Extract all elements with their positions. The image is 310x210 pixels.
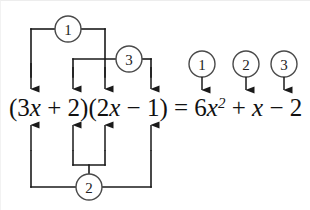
figure-canvas: 1 3 1 2 — [0, 0, 310, 210]
connector-1-group: 1 — [31, 16, 105, 77]
result-marker-2-label: 2 — [242, 57, 250, 73]
result-marker-2-group: 2 — [233, 51, 259, 90]
eq-open-paren-2: ( — [88, 94, 96, 122]
foil-diagram: 1 3 1 2 — [1, 1, 310, 210]
connector-1-label: 1 — [64, 22, 72, 38]
result-marker-3-label: 3 — [280, 57, 288, 73]
equation-text: (3x + 2)(2x − 1) = 6x2 + x − 2 — [9, 94, 302, 122]
eq-coeff-2: 2 — [97, 94, 110, 121]
eq-equals: = — [168, 94, 195, 121]
eq-close-paren-1: ) — [80, 94, 88, 122]
eq-var-x4: x — [251, 94, 263, 121]
eq-coeff-6: 6 — [194, 94, 207, 121]
eq-minus-1: − — [120, 94, 147, 121]
eq-open-paren-1: ( — [9, 94, 17, 122]
connector-3-group: 3 — [73, 46, 151, 77]
up-arrows-group — [31, 125, 151, 151]
eq-const-2b: 2 — [290, 94, 303, 121]
eq-minus-2: − — [263, 94, 290, 121]
result-markers-group: 1 2 3 — [189, 51, 297, 90]
result-marker-1-group: 1 — [189, 51, 215, 90]
eq-coeff-3: 3 — [17, 94, 30, 121]
eq-var-x3: x — [206, 94, 218, 121]
eq-const-2: 2 — [68, 94, 81, 121]
eq-close-paren-2: ) — [159, 94, 167, 122]
eq-var-x2: x — [108, 94, 120, 121]
eq-plus-1: + — [41, 94, 68, 121]
result-marker-1-label: 1 — [198, 57, 206, 73]
eq-plus-2: + — [225, 94, 252, 121]
eq-var-x1: x — [29, 94, 41, 121]
connector-2-group: 2 — [31, 151, 151, 200]
connector-2-label: 2 — [85, 180, 93, 196]
eq-const-1: 1 — [147, 94, 160, 121]
connector-3-label: 3 — [125, 52, 133, 68]
result-marker-3-group: 3 — [271, 51, 297, 90]
